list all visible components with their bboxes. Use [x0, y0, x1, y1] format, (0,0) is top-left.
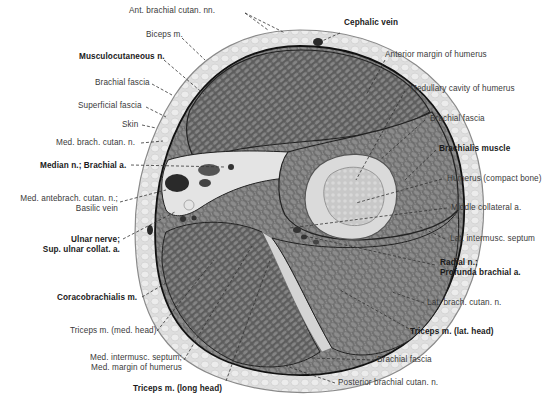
label-ulnar-nerve: Ulnar nerve;: [20, 235, 120, 245]
humerus-bone: [305, 154, 397, 239]
label-brachialis-muscle: Brachialis muscle: [439, 144, 510, 154]
label-musculocutaneous-n: Musculocutaneous n.: [79, 52, 165, 62]
median-nerve-vessel: [199, 179, 211, 187]
label-med-margin-humerus: Med. margin of humerus: [82, 363, 182, 373]
label-profunda-brachial-a: Profunda brachial a.: [440, 268, 521, 278]
label-triceps-med-head: Triceps m. (med. head): [70, 326, 157, 336]
label-lat-intermusc-septum: Lat. intermusc. septum: [450, 234, 535, 244]
label-superficial-fascia: Superficial fascia: [78, 101, 142, 111]
brachial-vein: [165, 174, 189, 192]
label-humerus-compact-bone: Humerus (compact bone): [447, 174, 542, 184]
label-med-antebrach-cutan-n: Med. antebrach. cutan. n.;: [18, 194, 118, 204]
label-skin: Skin: [122, 120, 138, 130]
label-biceps-m: Biceps m.: [146, 30, 183, 40]
label-med-brach-cutan-n: Med. brach. cutan. n.: [56, 138, 135, 148]
label-ant-brachial-cutan-nn: Ant. brachial cutan. nn.: [129, 6, 215, 16]
label-brachial-fascia-bottom: Brachial fascia: [377, 355, 432, 365]
label-radial-n: Radial n.;: [440, 258, 478, 268]
label-medullary-cavity-humerus: Medullary cavity of humerus: [410, 84, 515, 94]
label-brachial-fascia-left: Brachial fascia: [95, 78, 150, 88]
brachial-artery: [198, 164, 220, 176]
label-lat-brach-cutan-n: Lat. brach. cutan. n.: [427, 298, 501, 308]
label-sup-ulnar-collat-a: Sup. ulnar collat. a.: [20, 245, 120, 255]
label-median-n-brachial-a: Median n.; Brachial a.: [40, 161, 126, 171]
label-posterior-brachial-cutan-n: Posterior brachial cutan. n.: [338, 378, 438, 388]
label-triceps-long-head: Triceps m. (long head): [133, 384, 222, 394]
label-med-intermusc-septum: Med. intermusc. septum;: [82, 353, 182, 363]
label-basilic-vein: Basilic vein: [18, 204, 118, 214]
label-anterior-margin-humerus: Anterior margin of humerus: [385, 50, 487, 60]
label-brachial-fascia-right: Brachial fascia: [430, 114, 485, 124]
label-middle-collateral-a: Middle collateral a.: [451, 203, 521, 213]
label-triceps-lat-head: Triceps m. (lat. head): [410, 327, 494, 337]
label-cephalic-vein: Cephalic vein: [344, 18, 398, 28]
cephalic-vein: [313, 38, 323, 46]
label-coracobrachialis-m: Coracobrachialis m.: [57, 293, 137, 303]
